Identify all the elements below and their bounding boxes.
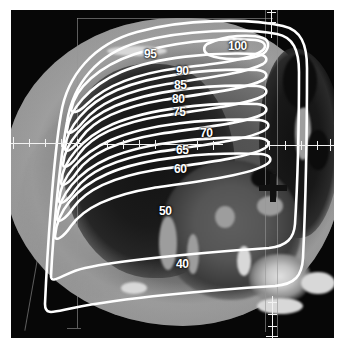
crosshair-tick <box>29 139 30 147</box>
isodose-label-80: 80 <box>172 93 185 105</box>
isodose-label-85: 85 <box>174 79 187 91</box>
crosshair-tick <box>268 326 277 327</box>
crosshair-tick <box>123 140 124 149</box>
isodose-label-90: 90 <box>176 65 189 77</box>
crosshair-tick <box>266 336 278 337</box>
isodose-label-50: 50 <box>159 205 172 217</box>
isodose-label-95: 95 <box>144 48 157 60</box>
crosshair-tick <box>330 139 331 151</box>
crosshair-tick <box>155 140 156 149</box>
isodose-label-100: 100 <box>228 40 247 52</box>
crosshair-vertical-top[interactable] <box>271 10 272 38</box>
crosshair-tick <box>77 139 78 147</box>
crosshair-tick <box>197 141 198 150</box>
crosshair-horizontal-right[interactable] <box>265 145 334 146</box>
crosshair-tick <box>285 141 286 150</box>
isodose-label-40: 40 <box>176 258 189 270</box>
crosshair-tick <box>13 137 14 149</box>
isodose-label-60: 60 <box>174 163 187 175</box>
crosshair-tick <box>107 140 108 149</box>
crosshair-tick <box>45 139 46 147</box>
crosshair-tick <box>269 141 270 150</box>
crosshair-tick <box>301 141 302 150</box>
crosshair-horizontal-left[interactable] <box>11 143 83 144</box>
crosshair-horizontal-mid[interactable] <box>103 144 223 145</box>
crosshair-tick <box>213 141 214 150</box>
reference-marker-icon[interactable] <box>259 174 287 202</box>
crosshair-tick <box>267 12 276 13</box>
isodose-60-path <box>55 154 270 239</box>
crosshair-tick <box>61 139 62 147</box>
crosshair-tick <box>139 140 140 149</box>
isodose-label-65: 65 <box>176 144 189 156</box>
crosshair-tick <box>268 302 277 303</box>
isodose-label-70: 70 <box>200 127 213 139</box>
crosshair-tick <box>317 141 318 150</box>
isodose-label-75: 75 <box>173 106 186 118</box>
screenshot-root: 100 95 90 85 80 75 70 65 60 50 40 <box>0 0 345 348</box>
ct-image-viewport[interactable]: 100 95 90 85 80 75 70 65 60 50 40 <box>11 10 334 338</box>
crosshair-tick <box>267 22 276 23</box>
crosshair-tick <box>268 314 277 315</box>
